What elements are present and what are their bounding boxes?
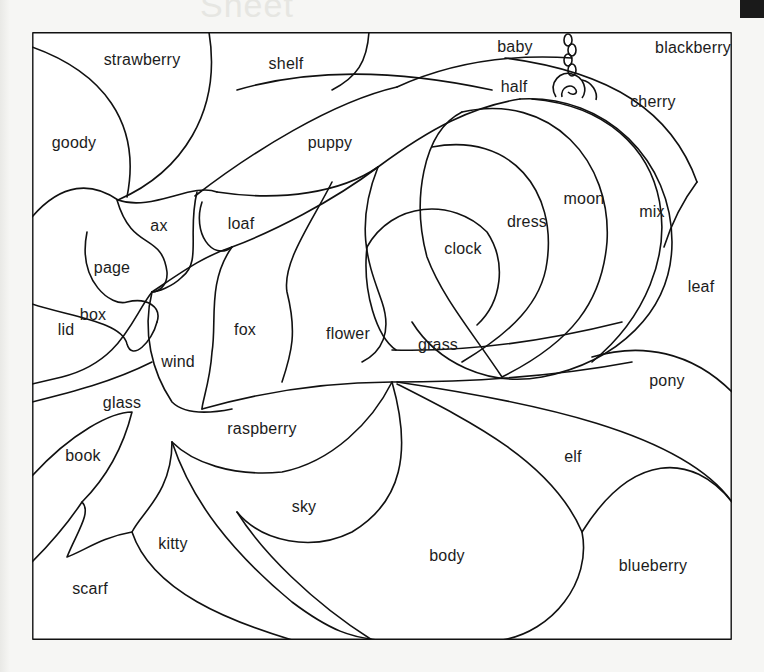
region-label-blueberry[interactable]: blueberry (615, 555, 692, 577)
region-label-ax[interactable]: ax (146, 215, 171, 237)
region-label-kitty[interactable]: kitty (154, 533, 191, 555)
region-label-flower[interactable]: flower (322, 323, 374, 345)
region-label-pony[interactable]: pony (645, 370, 689, 392)
faint-header-text: Sheet (200, 0, 294, 25)
region-label-lid[interactable]: lid (54, 319, 79, 341)
region-label-clock[interactable]: clock (440, 238, 485, 260)
region-label-dress[interactable]: dress (503, 211, 551, 233)
region-label-sky[interactable]: sky (288, 496, 321, 518)
region-label-half[interactable]: half (497, 76, 532, 98)
region-label-glass[interactable]: glass (99, 392, 145, 414)
region-label-grass[interactable]: grass (414, 334, 462, 356)
region-label-mix[interactable]: mix (635, 201, 668, 223)
region-label-moon[interactable]: moon (560, 188, 609, 210)
region-label-leaf[interactable]: leaf (684, 276, 719, 298)
page-edge-shadow (0, 0, 10, 672)
region-label-book[interactable]: book (61, 445, 105, 467)
region-label-puppy[interactable]: puppy (304, 132, 357, 154)
region-label-loaf[interactable]: loaf (224, 213, 259, 235)
region-label-raspberry[interactable]: raspberry (223, 418, 300, 440)
region-label-shelf[interactable]: shelf (265, 53, 308, 75)
region-label-wind[interactable]: wind (157, 351, 199, 373)
region-label-scarf[interactable]: scarf (68, 578, 112, 600)
region-label-body[interactable]: body (425, 545, 469, 567)
region-label-baby[interactable]: baby (493, 36, 537, 58)
region-label-goody[interactable]: goody (48, 132, 101, 154)
region-label-strawberry[interactable]: strawberry (100, 49, 185, 71)
chain-ring-icon (32, 32, 732, 640)
region-label-box[interactable]: box (76, 304, 110, 326)
corner-tab (740, 0, 764, 18)
region-label-page[interactable]: page (90, 257, 134, 279)
region-label-cherry[interactable]: cherry (626, 91, 680, 113)
region-label-elf[interactable]: elf (560, 446, 586, 468)
coloring-worksheet: strawberry shelf baby blackberry half ch… (32, 32, 732, 640)
region-label-fox[interactable]: fox (230, 319, 260, 341)
region-label-blackberry[interactable]: blackberry (651, 37, 735, 59)
